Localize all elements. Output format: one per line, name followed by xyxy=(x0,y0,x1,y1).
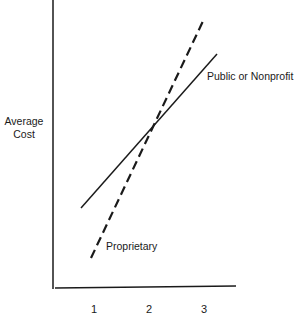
x-tick-1: 1 xyxy=(91,303,97,315)
public-nonprofit-label: Public or Nonprofit xyxy=(207,70,293,83)
x-tick-2: 2 xyxy=(146,303,152,315)
public-nonprofit-line xyxy=(81,54,217,208)
proprietary-label: Proprietary xyxy=(106,240,157,253)
y-axis-label-line1: Average xyxy=(4,115,44,128)
y-axis-label-line2: Cost xyxy=(4,128,44,141)
x-axis xyxy=(55,286,236,288)
x-tick-3: 3 xyxy=(201,303,207,315)
chart-canvas xyxy=(0,0,300,329)
y-axis-label: Average Cost xyxy=(4,115,44,141)
proprietary-line xyxy=(91,19,204,258)
